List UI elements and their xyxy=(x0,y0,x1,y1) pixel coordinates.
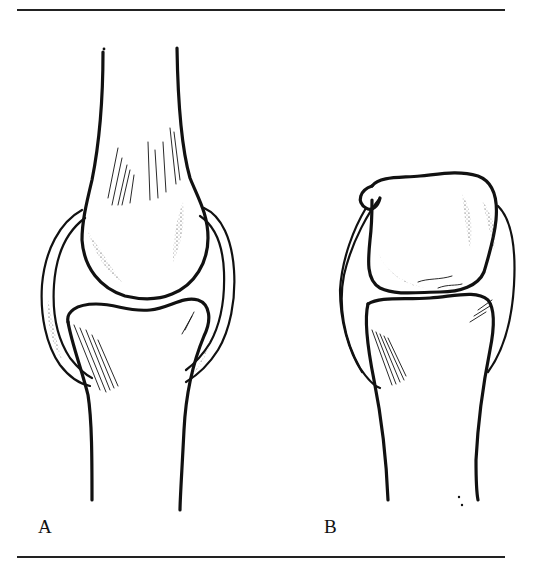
panel-b-drawing xyxy=(340,173,514,506)
panel-label-a: A xyxy=(38,516,52,538)
panel-a-upper-bone xyxy=(82,48,208,299)
panel-b-capsule-left xyxy=(342,198,380,388)
figure-illustration xyxy=(0,0,560,570)
panel-a-capsule-right xyxy=(186,208,234,382)
bottom-rule xyxy=(17,556,505,558)
panel-b-upper-bone xyxy=(369,173,497,293)
panel-a-drawing xyxy=(42,48,235,510)
panel-label-b: B xyxy=(324,516,337,538)
